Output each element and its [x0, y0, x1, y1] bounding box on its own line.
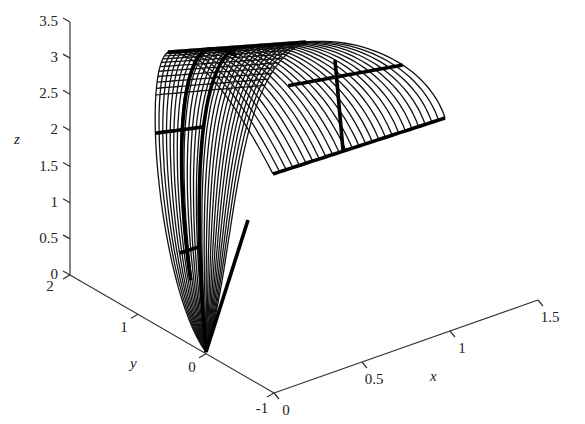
z-tick-label: 2.5: [39, 85, 58, 101]
z-tick: [63, 54, 70, 58]
x-tick: [538, 300, 543, 306]
y-tick: [199, 354, 206, 358]
z-tick: [63, 126, 70, 130]
y-tick-label: -1: [256, 400, 269, 416]
y-axis-label: y: [128, 355, 137, 371]
z-tick: [63, 271, 70, 275]
z-tick: [63, 163, 70, 167]
z-tick-label: 3.5: [39, 13, 58, 29]
x-axis: 00.511.5 x: [274, 300, 559, 418]
z-axis-label: z: [13, 131, 20, 147]
z-tick: [63, 18, 70, 22]
x-tick-label: 0: [282, 402, 290, 418]
highlight-curve: [273, 118, 445, 174]
z-tick-label: 0.5: [39, 230, 58, 246]
z-tick-label: 1: [51, 194, 59, 210]
z-tick-label: 1.5: [39, 158, 58, 174]
z-tick: [63, 235, 70, 239]
z-tick-label: 3: [51, 49, 59, 65]
y-axis-ticks: -1012: [46, 275, 274, 416]
x-tick-label: 1.5: [541, 309, 560, 325]
z-axis: 00.511.522.533.5 z: [13, 13, 70, 282]
x-tick-label: 1: [458, 340, 466, 356]
x-axis-ticks: 00.511.5: [274, 300, 559, 418]
z-axis-ticks: 00.511.522.533.5: [39, 13, 70, 282]
x-tick: [450, 331, 455, 337]
z-tick-label: 2: [51, 121, 59, 137]
y-tick: [267, 393, 274, 397]
mesh-line: [206, 44, 405, 352]
y-axis-line: [70, 275, 274, 393]
x-tick: [274, 393, 279, 399]
y-axis: -1012 y: [46, 275, 274, 416]
y-tick-label: 0: [188, 359, 196, 375]
mesh-line: [206, 43, 419, 352]
highlight-curve: [179, 247, 199, 253]
highlight-curve: [288, 65, 402, 86]
y-tick-label: 2: [46, 278, 54, 294]
x-tick-label: 0.5: [365, 371, 384, 387]
surface-plot: 00.511.522.533.5 z -1012 y 00.511.5 x: [0, 0, 585, 424]
x-tick: [362, 362, 367, 368]
z-tick: [63, 90, 70, 94]
y-tick-label: 1: [120, 319, 128, 335]
z-tick: [63, 199, 70, 203]
y-tick: [131, 314, 138, 318]
x-axis-line: [274, 300, 538, 393]
y-tick: [63, 275, 70, 279]
x-axis-label: x: [429, 368, 437, 384]
